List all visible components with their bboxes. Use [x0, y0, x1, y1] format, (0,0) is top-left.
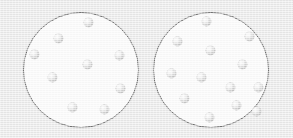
dot-marker	[100, 105, 109, 114]
dot-marker	[30, 50, 39, 59]
figure-canvas	[0, 0, 293, 138]
dot-marker	[226, 83, 235, 92]
dot-marker	[116, 84, 125, 93]
dot-marker	[48, 73, 57, 82]
dot-marker	[205, 113, 214, 122]
dot-marker	[232, 101, 241, 110]
dot-marker	[252, 107, 261, 116]
left-dish-circle	[23, 12, 139, 128]
dot-marker	[115, 51, 124, 60]
dot-marker	[180, 94, 189, 103]
right-dish-circle	[153, 12, 269, 128]
dot-marker	[173, 37, 182, 46]
dot-marker	[202, 17, 211, 26]
dot-marker	[54, 34, 63, 43]
dot-marker	[68, 103, 77, 112]
dot-marker	[84, 18, 93, 27]
dot-marker	[206, 46, 215, 55]
right-dish-dot-layer	[154, 13, 268, 127]
dot-marker	[238, 60, 247, 69]
dot-marker	[83, 60, 92, 69]
left-dish-dot-layer	[24, 13, 138, 127]
dot-marker	[197, 73, 206, 82]
dot-marker	[254, 83, 263, 92]
dot-marker	[245, 32, 254, 41]
dot-marker	[167, 69, 176, 78]
